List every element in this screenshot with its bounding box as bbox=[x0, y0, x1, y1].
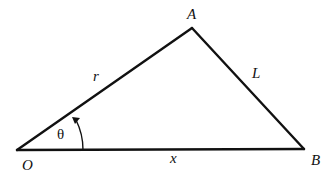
side-label-x: x bbox=[170, 151, 177, 166]
vertex-label-o: O bbox=[22, 158, 33, 173]
side-ab bbox=[192, 28, 304, 149]
side-label-r: r bbox=[93, 69, 99, 84]
vertex-label-b: B bbox=[311, 153, 320, 168]
side-ob bbox=[17, 149, 304, 150]
side-oa bbox=[17, 28, 192, 150]
triangle-diagram: A B O r L x θ bbox=[0, 0, 330, 179]
side-label-l: L bbox=[252, 66, 260, 81]
vertex-label-a: A bbox=[187, 7, 196, 22]
angle-label-theta: θ bbox=[57, 127, 64, 142]
arc-arrowhead-icon bbox=[72, 117, 80, 124]
angle-arc bbox=[76, 120, 83, 150]
triangle-figure bbox=[0, 0, 330, 179]
